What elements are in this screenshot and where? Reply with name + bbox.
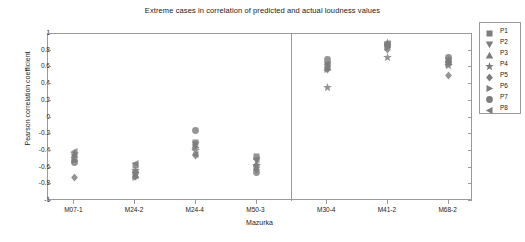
legend-item-P4[interactable]: P4	[480, 58, 520, 69]
y-tick-mark	[468, 33, 472, 34]
y-tick-mark	[47, 83, 51, 84]
data-point-P5	[69, 172, 80, 183]
y-tick-mark	[468, 66, 472, 67]
y-tick-mark	[468, 167, 472, 168]
legend-item-label: P5	[500, 71, 508, 78]
panel-divider	[291, 34, 292, 201]
y-tick-label: -1	[10, 196, 50, 203]
x-tick-label: M24-4	[165, 206, 225, 213]
legend-item-P1[interactable]: P1	[480, 25, 520, 36]
chart-root: Extreme cases in correlation of predicte…	[0, 0, 525, 242]
y-tick-mark	[47, 150, 51, 151]
data-point-P8	[251, 154, 262, 165]
legend-item-P7[interactable]: P7	[480, 91, 520, 102]
legend-item-P6[interactable]: P6	[480, 80, 520, 91]
triangle-right-icon	[484, 80, 497, 91]
x-tick-label: M50-3	[226, 206, 286, 213]
y-tick-mark	[47, 117, 51, 118]
x-tick-label: M07-1	[43, 206, 103, 213]
y-tick-mark	[47, 183, 51, 184]
legend-item-P2[interactable]: P2	[480, 36, 520, 47]
data-point-P8	[69, 146, 80, 157]
legend-item-label: P1	[500, 27, 508, 34]
legend-item-label: P8	[500, 104, 508, 111]
x-tick-mark	[73, 200, 74, 204]
data-point-P7	[69, 157, 80, 168]
x-tick-mark	[256, 200, 257, 204]
triangle-down-icon	[484, 36, 497, 47]
y-tick-mark	[468, 183, 472, 184]
x-tick-mark	[195, 200, 196, 204]
legend-item-P5[interactable]: P5	[480, 69, 520, 80]
legend-item-label: P2	[500, 38, 508, 45]
y-tick-mark	[47, 100, 51, 101]
x-tick-label: M41-2	[357, 206, 417, 213]
chart-title: Extreme cases in correlation of predicte…	[0, 6, 525, 15]
circle-icon	[484, 91, 497, 102]
square-icon	[484, 25, 497, 36]
legend-item-P8[interactable]: P8	[480, 102, 520, 113]
legend[interactable]: P1P2P3P4P5P6P7P8	[479, 22, 521, 114]
x-tick-label: M24-2	[104, 206, 164, 213]
x-tick-label: M30-4	[296, 206, 356, 213]
legend-item-P3[interactable]: P3	[480, 47, 520, 58]
y-tick-mark	[468, 200, 472, 201]
y-tick-mark	[468, 50, 472, 51]
x-tick-mark	[448, 200, 449, 204]
plot-area	[47, 33, 472, 200]
y-tick-mark	[47, 33, 51, 34]
x-tick-mark	[134, 200, 135, 204]
y-tick-mark	[468, 150, 472, 151]
legend-item-label: P4	[500, 60, 508, 67]
diamond-icon	[484, 69, 497, 80]
data-point-P8	[443, 56, 454, 67]
y-tick-mark	[47, 50, 51, 51]
y-tick-mark	[468, 100, 472, 101]
data-point-P7	[251, 167, 262, 178]
y-tick-mark	[468, 117, 472, 118]
x-axis-label: Mazurka	[47, 219, 472, 226]
data-point-P4	[322, 82, 333, 93]
x-tick-mark	[326, 200, 327, 204]
y-tick-mark	[468, 83, 472, 84]
legend-item-label: P3	[500, 49, 508, 56]
y-axis-label: Pearson correlation coefficient	[24, 14, 31, 184]
y-tick-mark	[47, 167, 51, 168]
legend-item-label: P6	[500, 82, 508, 89]
x-tick-label: M68-2	[418, 206, 478, 213]
y-tick-mark	[47, 200, 51, 201]
x-tick-mark	[387, 200, 388, 204]
data-point-P8	[190, 149, 201, 160]
data-point-P8	[322, 59, 333, 70]
y-tick-mark	[47, 133, 51, 134]
data-point-P5	[443, 70, 454, 81]
triangle-up-icon	[484, 47, 497, 58]
data-point-P7	[190, 125, 201, 136]
y-tick-mark	[47, 66, 51, 67]
y-tick-mark	[468, 133, 472, 134]
star-icon	[484, 58, 497, 69]
data-point-P8	[382, 38, 393, 49]
triangle-left-icon	[484, 102, 497, 113]
data-point-P8	[130, 158, 141, 169]
legend-item-label: P7	[500, 93, 508, 100]
